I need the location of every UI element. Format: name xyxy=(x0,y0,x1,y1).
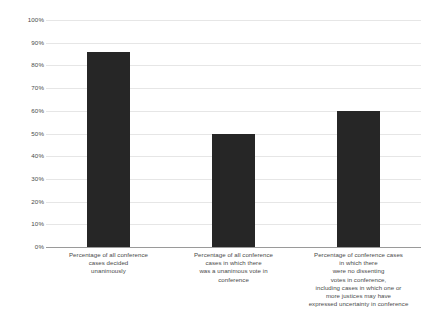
x-axis-label-line: votes in conference, xyxy=(294,276,424,284)
x-axis-label-line: Percentage of all conference xyxy=(44,251,174,259)
y-axis-tick-label: 20% xyxy=(4,199,44,205)
x-axis-label-2: Percentage of all conferencecases in whi… xyxy=(169,251,299,284)
x-axis-label-line: more justices may have xyxy=(294,292,424,300)
x-axis-label-line: cases in which there xyxy=(169,259,299,267)
bar-3 xyxy=(337,111,380,247)
y-axis-tick-label: 90% xyxy=(4,40,44,46)
x-axis-label-3: Percentage of conference casesin which t… xyxy=(294,251,424,308)
x-axis-label-line: Percentage of conference cases xyxy=(294,251,424,259)
x-axis-label-line: were no dissenting xyxy=(294,267,424,275)
bar-2 xyxy=(212,134,255,248)
x-axis-label-1: Percentage of all conferencecases decide… xyxy=(44,251,174,276)
y-axis-tick-label: 30% xyxy=(4,176,44,182)
cropped-title-remnant xyxy=(72,0,272,3)
y-axis-tick-label: 50% xyxy=(4,131,44,137)
bar-chart: 100%90%80%70%60%50%40%30%20%10%0% Percen… xyxy=(0,0,426,331)
gridline xyxy=(46,43,421,44)
y-axis-tick-label: 40% xyxy=(4,153,44,159)
x-axis-label-line: including cases in which one or xyxy=(294,284,424,292)
x-axis-label-line: expressed uncertainty in conference xyxy=(294,300,424,308)
y-axis-tick-label: 0% xyxy=(4,244,44,250)
y-axis-tick-label: 10% xyxy=(4,221,44,227)
y-axis-tick-label: 70% xyxy=(4,85,44,91)
y-axis-tick-label: 100% xyxy=(4,17,44,23)
y-axis-tick-label: 80% xyxy=(4,62,44,68)
gridline xyxy=(46,20,421,21)
x-axis-label-line: unanimously xyxy=(44,267,174,275)
x-axis-label-line: cases decided xyxy=(44,259,174,267)
bar-1 xyxy=(87,52,130,247)
x-axis-label-line: Percentage of all conference xyxy=(169,251,299,259)
y-axis-tick-label: 60% xyxy=(4,108,44,114)
x-axis-label-line: was a unanimous vote in xyxy=(169,267,299,275)
plot-area xyxy=(46,20,421,247)
x-axis-baseline xyxy=(46,247,421,248)
x-axis-label-line: conference xyxy=(169,276,299,284)
x-axis-category-labels: Percentage of all conferencecases decide… xyxy=(46,251,421,331)
x-axis-label-line: in which there xyxy=(294,259,424,267)
